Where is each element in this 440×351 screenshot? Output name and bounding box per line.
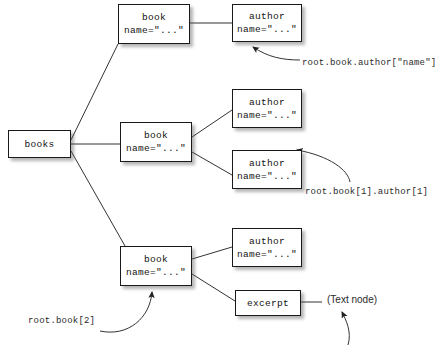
node-author-1a[interactable]: author name="..."	[232, 89, 302, 128]
annotation-author-name: root.book.author["name"]	[302, 57, 436, 69]
edge-book2-to-author2	[192, 247, 232, 259]
node-author-1b[interactable]: author name="..."	[232, 150, 302, 189]
annotation-book1-author1: root.book[1].author[1]	[305, 186, 428, 198]
edge-book1-to-author1b	[192, 152, 232, 175]
node-author-2-attr: name="..."	[237, 248, 297, 261]
node-author-0[interactable]: author name="..."	[232, 4, 302, 42]
node-author-2[interactable]: author name="..."	[232, 228, 302, 267]
node-book-0-attr: name="..."	[124, 24, 184, 37]
node-book-2-label: book	[144, 253, 168, 266]
node-book-2-attr: name="..."	[126, 266, 186, 279]
node-author-1a-attr: name="..."	[237, 109, 297, 122]
callout-arrow-book1-author1	[297, 150, 350, 182]
node-book-1-label: book	[144, 129, 168, 142]
annotation-text-node: (Text node)	[327, 294, 377, 306]
node-author-1b-attr: name="..."	[237, 170, 297, 183]
callout-arrow-author-name	[253, 47, 300, 60]
node-book-0[interactable]: book name="..."	[118, 4, 190, 44]
node-book-2[interactable]: book name="..."	[120, 246, 192, 286]
callout-arrow-book2	[100, 292, 152, 332]
node-author-1a-label: author	[249, 96, 285, 109]
node-excerpt[interactable]: excerpt	[235, 290, 301, 316]
edge-books-to-book0	[71, 44, 118, 140]
edge-book2-to-excerpt	[192, 274, 235, 301]
node-author-1b-label: author	[249, 157, 285, 170]
callout-arrow-text-node	[342, 312, 349, 345]
node-book-0-label: book	[142, 11, 166, 24]
node-excerpt-label: excerpt	[247, 297, 289, 310]
edge-books-to-book2	[71, 151, 125, 246]
node-author-0-label: author	[249, 10, 285, 23]
node-books[interactable]: books	[8, 130, 71, 158]
node-book-1-attr: name="..."	[126, 142, 186, 155]
dom-tree-diagram: books book name="..." author name="..." …	[0, 0, 440, 351]
edge-book1-to-author1a	[192, 110, 232, 137]
node-author-2-label: author	[249, 235, 285, 248]
node-author-0-attr: name="..."	[237, 23, 297, 36]
node-book-1[interactable]: book name="..."	[120, 122, 192, 162]
node-books-label: books	[24, 138, 54, 151]
annotation-book2: root.book[2]	[28, 315, 95, 327]
